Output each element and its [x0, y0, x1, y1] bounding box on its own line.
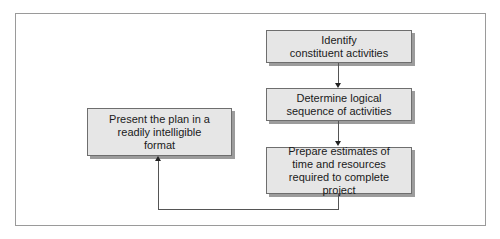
connector-estimate-horizontal [158, 209, 339, 210]
connector-identify-to-sequence [338, 63, 339, 84]
node-determine-sequence: Determine logical sequence of activities [266, 88, 412, 121]
node-prepare-estimates: Prepare estimates of time and resources … [266, 147, 412, 194]
figure-caption [16, 233, 166, 239]
node-identify-activities: Identify constituent activities [266, 30, 412, 63]
connector-estimate-down [338, 194, 339, 209]
connector-to-present-up [158, 160, 159, 210]
node-label: Prepare estimates of time and resources … [271, 145, 407, 197]
node-label: Present the plan in a readily intelligib… [109, 113, 210, 152]
connector-sequence-to-estimate [338, 121, 339, 142]
arrow-head-icon [155, 156, 161, 161]
arrow-head-icon [335, 141, 341, 146]
arrow-head-icon [335, 83, 341, 88]
node-present-plan: Present the plan in a readily intelligib… [87, 108, 232, 156]
node-label: Identify constituent activities [290, 34, 388, 60]
node-label: Determine logical sequence of activities [286, 92, 391, 118]
diagram-frame [15, 13, 486, 226]
